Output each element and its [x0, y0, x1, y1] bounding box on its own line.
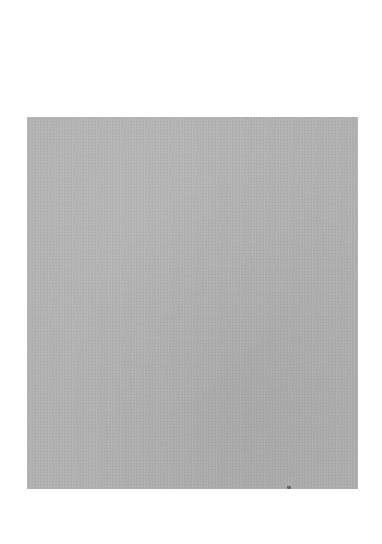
image-canvas — [0, 0, 382, 544]
dark-speck-mark — [287, 486, 291, 489]
gray-texture-swatch — [27, 117, 358, 489]
